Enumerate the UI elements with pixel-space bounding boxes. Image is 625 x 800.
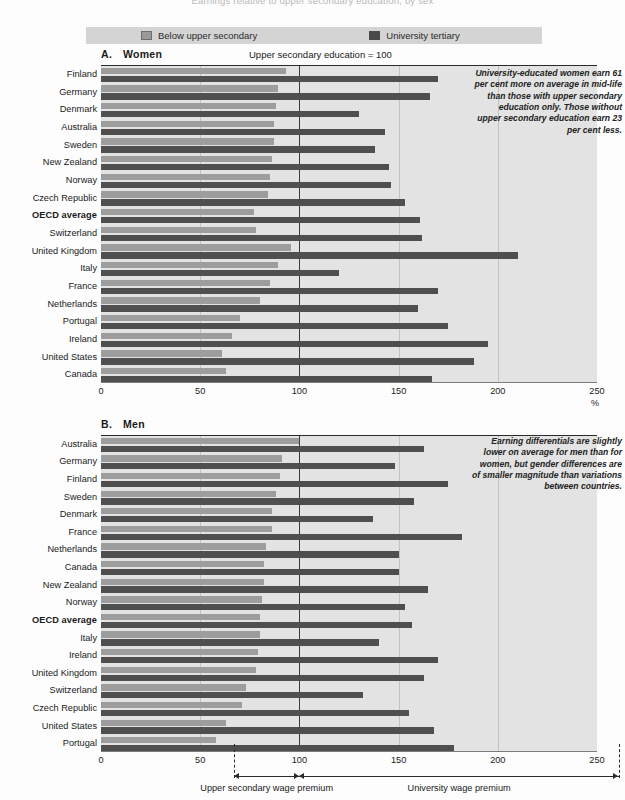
category-label: Canada — [65, 562, 97, 572]
x-tick-label-50: 50 — [195, 386, 205, 396]
bar-row — [101, 313, 597, 331]
x-tick-label-100: 100 — [292, 755, 307, 765]
category-label: Denmark — [60, 104, 97, 114]
x-tick-label-0: 0 — [98, 755, 103, 765]
chart-page: Earnings relative to upper secondary edu… — [0, 0, 625, 800]
bar-below-upper-secondary — [101, 209, 254, 215]
bar-below-upper-secondary — [101, 543, 266, 549]
bar-below-upper-secondary — [101, 614, 260, 620]
category-label: Denmark — [60, 509, 97, 519]
bar-university-tertiary — [101, 199, 405, 205]
category-label: Canada — [65, 369, 97, 379]
bar-below-upper-secondary — [101, 508, 272, 514]
bar-university-tertiary — [101, 217, 420, 223]
bar-below-upper-secondary — [101, 526, 272, 532]
legend-label-university-tertiary: University tertiary — [386, 30, 459, 41]
bar-row — [101, 225, 597, 243]
x-axis-unit-label: % — [591, 398, 599, 408]
bar-university-tertiary — [101, 146, 375, 152]
bar-row — [101, 331, 597, 349]
bar-below-upper-secondary — [101, 174, 270, 180]
bar-row — [101, 665, 597, 683]
upper-secondary-wage-premium-arrow-left-icon — [234, 773, 239, 779]
bar-university-tertiary — [101, 341, 488, 347]
legend: Below upper secondary University tertiar… — [86, 27, 542, 44]
bar-university-tertiary — [101, 288, 438, 294]
legend-swatch-university-tertiary-icon — [369, 31, 380, 40]
bar-university-tertiary — [101, 182, 391, 188]
bar-below-upper-secondary — [101, 227, 256, 233]
legend-item-below-upper-secondary: Below upper secondary — [141, 30, 257, 41]
bar-university-tertiary — [101, 358, 474, 364]
bar-below-upper-secondary — [101, 350, 222, 356]
upper-secondary-wage-premium-line — [234, 776, 299, 777]
category-label: Ireland — [69, 650, 97, 660]
x-tick-label-250: 250 — [589, 755, 604, 765]
category-label: Italy — [80, 263, 97, 273]
category-label: New Zealand — [43, 157, 97, 167]
bar-row — [101, 595, 597, 613]
legend-swatch-below-upper-secondary-icon — [141, 31, 152, 40]
category-label: OECD average — [32, 210, 97, 220]
bar-row — [101, 524, 597, 542]
category-label: Finland — [67, 474, 97, 484]
bar-row — [101, 612, 597, 630]
category-label: Sweden — [64, 492, 97, 502]
bar-row — [101, 647, 597, 665]
category-label: Czech Republic — [33, 193, 97, 203]
panel-b-annotation: Earning differentials are slightly lower… — [470, 436, 622, 493]
bar-below-upper-secondary — [101, 473, 280, 479]
bar-row — [101, 190, 597, 208]
bar-university-tertiary — [101, 534, 462, 540]
category-label: Australia — [61, 439, 97, 449]
panel-a-annotation: University-educated women earn 61 per ce… — [474, 68, 622, 136]
bar-university-tertiary — [101, 111, 359, 117]
bar-below-upper-secondary — [101, 667, 256, 673]
bar-row — [101, 260, 597, 278]
bar-below-upper-secondary — [101, 85, 278, 91]
category-label: France — [68, 527, 97, 537]
category-label: Portugal — [63, 738, 97, 748]
bar-university-tertiary — [101, 463, 395, 469]
panel-a-x-axis: 050100150200250% — [101, 386, 597, 412]
category-label: Switzerland — [50, 228, 98, 238]
bar-below-upper-secondary — [101, 191, 268, 197]
bar-row — [101, 137, 597, 155]
upper-secondary-wage-premium-label: Upper secondary wage premium — [200, 783, 333, 793]
bar-university-tertiary — [101, 639, 379, 645]
wage-premium-brackets: Upper secondary wage premiumUniversity w… — [101, 770, 597, 800]
bar-row — [101, 683, 597, 701]
bar-below-upper-secondary — [101, 315, 240, 321]
bar-university-tertiary — [101, 93, 430, 99]
bar-university-tertiary — [101, 551, 399, 557]
bar-below-upper-secondary — [101, 121, 274, 127]
category-label: Ireland — [69, 334, 97, 344]
bar-university-tertiary — [101, 446, 424, 452]
x-tick-label-200: 200 — [490, 386, 505, 396]
category-label: Australia — [61, 122, 97, 132]
bar-row — [101, 506, 597, 524]
bar-university-tertiary — [101, 164, 389, 170]
x-tick-label-150: 150 — [391, 755, 406, 765]
bar-university-tertiary — [101, 481, 448, 487]
university-wage-premium-arrow-left-icon — [299, 773, 304, 779]
x-tick-label-50: 50 — [195, 755, 205, 765]
panel-a-header: A. Women Upper secondary education = 100 — [101, 48, 597, 64]
bar-university-tertiary — [101, 76, 438, 82]
bar-below-upper-secondary — [101, 297, 260, 303]
bar-row — [101, 577, 597, 595]
panel-b-letter: B. — [101, 418, 112, 430]
upper-secondary-wage-premium-arrow-right-icon — [294, 773, 299, 779]
bar-below-upper-secondary — [101, 280, 270, 286]
bar-row — [101, 542, 597, 560]
bar-below-upper-secondary — [101, 684, 246, 690]
bar-below-upper-secondary — [101, 737, 216, 743]
bar-university-tertiary — [101, 516, 373, 522]
bar-university-tertiary — [101, 657, 438, 663]
bar-university-tertiary — [101, 323, 448, 329]
category-label: United States — [42, 721, 97, 731]
bar-below-upper-secondary — [101, 438, 299, 444]
bar-university-tertiary — [101, 710, 409, 716]
bar-university-tertiary — [101, 675, 424, 681]
category-label: Sweden — [64, 140, 97, 150]
